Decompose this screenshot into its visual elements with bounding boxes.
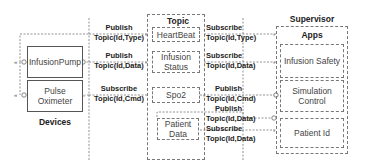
app-infusion-safety[interactable]: Infusion Safety xyxy=(280,44,344,78)
arrow-icon: › xyxy=(273,127,275,133)
right-link-1-action: Subscribe xyxy=(206,51,242,61)
left-link-0-action: Publish xyxy=(91,23,147,33)
right-link-1: Subscribe Topic(Id,Data) xyxy=(206,51,242,71)
right-link-2: Publish Topic(Id,Cmd) xyxy=(206,84,242,104)
right-link-3-topic: Topic(Id,Data) xyxy=(206,114,242,124)
app-simulation-control[interactable]: Simulation Control xyxy=(280,80,344,112)
arrow-icon: ‹ xyxy=(83,92,85,98)
port-oximeter-left xyxy=(22,93,26,97)
arrow-icon: « xyxy=(14,59,18,65)
left-link-1: Publish Topic(Id,Data) xyxy=(91,51,147,71)
topic-infusion-line2: Status xyxy=(164,62,188,72)
topic-patient-line1: Patient xyxy=(165,119,191,129)
device-oximeter-line2: Oximeter xyxy=(38,96,72,106)
left-link-0: Publish Topic(Id,Type) xyxy=(91,23,147,43)
left-link-1-topic: Topic(Id,Data) xyxy=(91,61,147,71)
app-patient-id-label: Patient Id xyxy=(294,128,330,138)
topic-spo2-label: Spo2 xyxy=(166,90,186,100)
topic-infusion-status[interactable]: Infusion Status xyxy=(152,51,200,73)
app-infusion-safety-label: Infusion Safety xyxy=(284,56,340,66)
topic-infusion-line1: Infusion xyxy=(161,52,191,62)
right-link-2-topic: Topic(Id,Cmd) xyxy=(206,94,242,104)
app-sim-line2: Control xyxy=(298,96,325,106)
left-link-1-action: Publish xyxy=(91,51,147,61)
right-link-3-action: Publish xyxy=(206,104,242,114)
right-link-4-action: Subscribe xyxy=(206,124,242,134)
right-link-3: Publish Topic(Id,Data) xyxy=(206,104,242,124)
topic-patient-data[interactable]: Patient Data xyxy=(157,118,199,140)
supervisor-title: Supervisor xyxy=(276,14,348,24)
right-link-0-action: Subscribe xyxy=(206,23,242,33)
left-link-2: Subscribe Topic(Id,Cmd) xyxy=(91,84,147,104)
right-link-1-topic: Topic(Id,Data) xyxy=(206,61,242,71)
app-sim-line1: Simulation xyxy=(292,86,332,96)
port-infusionpump-left xyxy=(22,60,26,64)
left-link-2-action: Subscribe xyxy=(91,84,147,94)
apps-title: Apps xyxy=(276,30,348,40)
devices-title: Devices xyxy=(27,117,83,127)
topic-heartbeat[interactable]: HeartBeat xyxy=(152,27,200,42)
right-link-2-action: Publish xyxy=(206,84,242,94)
right-link-0: Subscribe Topic(Id,Type) xyxy=(206,23,242,43)
device-infusionpump-label: InfusionPump xyxy=(29,57,81,67)
left-link-0-topic: Topic(Id,Type) xyxy=(91,33,147,43)
arrow-icon: › xyxy=(273,31,275,37)
left-link-2-topic: Topic(Id,Cmd) xyxy=(91,94,147,104)
right-link-4-topic: Topic(Id,Data) xyxy=(206,134,242,144)
right-link-0-topic: Topic(Id,Type) xyxy=(206,33,242,43)
app-patient-id[interactable]: Patient Id xyxy=(280,118,344,148)
device-oximeter-line1: Pulse xyxy=(44,86,65,96)
topic-spo2[interactable]: Spo2 xyxy=(152,87,200,103)
topic-heartbeat-label: HeartBeat xyxy=(157,30,195,40)
topic-patient-line2: Data xyxy=(169,129,187,139)
device-infusionpump[interactable]: InfusionPump xyxy=(27,46,83,78)
device-pulse-oximeter[interactable]: Pulse Oximeter xyxy=(27,80,83,112)
right-link-4: Subscribe Topic(Id,Data) xyxy=(206,124,242,144)
arrow-icon: « xyxy=(14,92,18,98)
arrow-icon: › xyxy=(273,59,275,65)
